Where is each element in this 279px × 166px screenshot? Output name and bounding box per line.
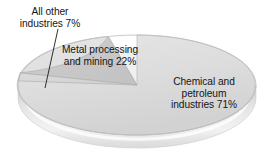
slice-label-metal-processing-line1: Metal processing bbox=[54, 44, 146, 56]
slice-label-all-other-line2: industries 7% bbox=[8, 18, 92, 30]
slice-label-all-other-line1: All other bbox=[8, 6, 92, 18]
slice-label-all-other: All other industries 7% bbox=[8, 6, 92, 29]
slice-label-chemical-petroleum-line3: industries 71% bbox=[152, 99, 256, 111]
slice-label-chemical-petroleum-line1: Chemical and bbox=[152, 76, 256, 88]
pie-chart-figure: All other industries 7% Metal processing… bbox=[0, 0, 279, 166]
slice-label-metal-processing: Metal processing and mining 22% bbox=[54, 44, 146, 67]
slice-label-chemical-petroleum: Chemical and petroleum industries 71% bbox=[152, 76, 256, 111]
slice-label-chemical-petroleum-line2: petroleum bbox=[152, 88, 256, 100]
slice-label-metal-processing-line2: and mining 22% bbox=[54, 56, 146, 68]
